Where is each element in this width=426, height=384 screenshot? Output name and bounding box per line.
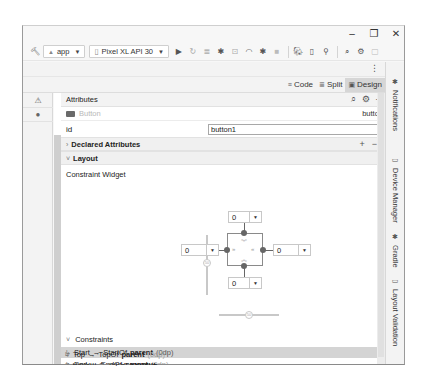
tab-notifications[interactable]: ✱ Notifications <box>391 78 400 131</box>
maximize-button[interactable]: ❐ <box>367 28 381 39</box>
constraint-target-attr: TopOf <box>108 363 128 366</box>
tab-gradle-label: Gradle <box>391 245 400 268</box>
hammer-icon[interactable]: 🔨︎ <box>29 47 41 56</box>
constraint-side: Top <box>73 350 85 359</box>
left-anchor[interactable] <box>224 247 230 253</box>
constraint-item[interactable]: ↳ Top → TopOf parent (0dp) <box>60 349 360 360</box>
constraint-target-attr: TopOf <box>98 350 118 359</box>
device-icon: ▯ <box>94 47 98 56</box>
tab-code[interactable]: ≡ Code <box>285 78 316 92</box>
main-toolbar: 🔨︎ ▲ app ▼ ▯ Pixel XL API 30 ▼ ▶ ↻ ≣ ✱ ⊡… <box>23 43 404 61</box>
minimize-button[interactable]: – <box>345 28 359 39</box>
coverage-icon[interactable]: ✱ <box>257 47 269 56</box>
avd-manager-icon[interactable]: ▯ <box>306 47 318 56</box>
design-icon: ▣ <box>348 81 355 89</box>
bell-icon: ✱ <box>392 78 399 86</box>
left-margin-value: 0 <box>182 246 206 255</box>
split-icon: ≣ <box>319 81 325 89</box>
tab-split-label: Split <box>327 80 343 89</box>
separator <box>337 46 338 58</box>
layout-inspector-icon[interactable]: ▢ <box>369 47 381 56</box>
constraint-widget: 50 50 0 ▼ ︾ 0 ▼ <box>61 93 385 365</box>
constraint-icon: ↳ <box>64 351 70 359</box>
apply-changes-icon[interactable]: ↻ <box>187 47 199 56</box>
right-anchor[interactable] <box>260 247 266 253</box>
tab-split[interactable]: ≣ Split <box>316 78 345 92</box>
run-icon[interactable]: ▶ <box>173 47 185 56</box>
device-icon: ▭ <box>392 156 399 164</box>
tab-device-manager-label: Device Manager <box>391 168 400 223</box>
chevron-down-icon: ▼ <box>249 212 261 222</box>
attributes-panel: Attributes ⌕ ⚙ – Button button id › Decl… <box>54 93 385 365</box>
right-chevrons: « <box>251 246 253 252</box>
device-combo[interactable]: ▯ Pixel XL API 30 ▼ <box>89 45 169 58</box>
divider <box>23 121 53 122</box>
bottom-margin-value: 0 <box>229 279 249 288</box>
editor-subbar: ⋮ <box>23 62 385 77</box>
left-margin-dropdown[interactable]: 0 ▼ <box>181 244 219 256</box>
profile-icon[interactable]: ◠ <box>243 47 255 56</box>
stop-icon[interactable]: ■ <box>271 47 283 56</box>
tab-layout-validation[interactable]: ▭ Layout Validation <box>391 277 400 346</box>
arrow-icon: → <box>98 363 107 366</box>
bottom-margin-dropdown[interactable]: 0 ▼ <box>228 277 262 289</box>
tab-notifications-label: Notifications <box>391 90 400 131</box>
constraint-target: parent <box>121 350 144 359</box>
top-margin-dropdown[interactable]: 0 ▼ <box>228 211 262 223</box>
separator <box>288 46 289 58</box>
top-chevrons: ︾ <box>241 237 246 246</box>
constraint-item-clipped: ↳ Bottom → TopOf button2 <box>60 363 360 366</box>
warning-icon[interactable]: ⚠ <box>32 96 44 105</box>
elephant-icon: ✱ <box>392 233 399 241</box>
sync-icon[interactable]: 🐘︎ <box>292 47 304 56</box>
apply-code-icon[interactable]: ≣ <box>201 47 213 56</box>
info-icon[interactable]: ● <box>32 110 44 119</box>
top-anchor[interactable] <box>241 230 247 236</box>
right-margin-dropdown[interactable]: 0 ▼ <box>273 244 311 256</box>
divider <box>23 107 53 108</box>
tab-device-manager[interactable]: ▭ Device Manager <box>391 156 400 223</box>
chevron-down-icon: ▼ <box>249 278 261 288</box>
arrow-icon: → <box>88 350 96 359</box>
close-button[interactable]: ✕ <box>389 28 403 39</box>
chevron-down-icon: ▼ <box>158 49 164 55</box>
chevron-down-icon: ▼ <box>298 245 310 255</box>
horizontal-bias-knob[interactable]: 50 <box>245 311 253 319</box>
validation-icon: ▭ <box>392 277 399 285</box>
constraint-side: Bottom <box>72 363 96 366</box>
tab-layout-validation-label: Layout Validation <box>391 289 400 346</box>
chevron-down-icon: ▼ <box>74 49 80 55</box>
left-gutter: ⚠ ● <box>23 93 53 365</box>
panel-left-strip <box>54 135 61 365</box>
debug-icon[interactable]: ✱ <box>215 47 227 56</box>
left-chevrons: » <box>232 246 234 252</box>
more-options-icon[interactable]: ⋮ <box>370 63 379 73</box>
right-tool-strip: ✱ Notifications ▭ Device Manager ✱ Gradl… <box>385 62 405 365</box>
gear-icon[interactable]: ⚙ <box>355 47 367 56</box>
tab-gradle[interactable]: ✱ Gradle <box>391 233 400 268</box>
chevron-down-icon: ▼ <box>206 245 218 255</box>
constraints-header[interactable]: ˅ Constraints <box>66 335 113 344</box>
bottom-anchor[interactable] <box>241 263 247 269</box>
view-mode-bar: ≡ Code ≣ Split ▣ Design <box>23 77 385 93</box>
chevron-down-icon: ˅ <box>66 336 70 343</box>
tab-design-label: Design <box>357 80 382 89</box>
tab-code-label: Code <box>294 80 313 89</box>
device-label: Pixel XL API 30 <box>102 47 153 56</box>
vertical-bias-knob[interactable]: 50 <box>203 259 211 267</box>
scrollbar-thumb[interactable] <box>378 93 384 357</box>
ide-window: – ❐ ✕ 🔨︎ ▲ app ▼ ▯ Pixel XL API 30 ▼ ▶ ↻… <box>22 25 405 365</box>
constraint-target: button2 <box>130 363 158 366</box>
sdk-manager-icon[interactable]: ⚲ <box>320 47 332 56</box>
search-icon[interactable]: ⌕ <box>341 47 353 57</box>
right-margin-value: 0 <box>274 246 298 255</box>
attach-debugger-icon[interactable]: ⊡ <box>229 47 241 56</box>
title-bar: – ❐ ✕ <box>23 26 404 43</box>
bottom-chevrons: ︽ <box>241 254 246 263</box>
constraints-label: Constraints <box>75 335 113 344</box>
module-label: app <box>57 47 70 56</box>
android-icon: ▲ <box>48 49 54 55</box>
constraint-margin: (0dp) <box>147 350 165 359</box>
tab-design[interactable]: ▣ Design <box>345 78 385 92</box>
module-combo[interactable]: ▲ app ▼ <box>43 45 85 58</box>
